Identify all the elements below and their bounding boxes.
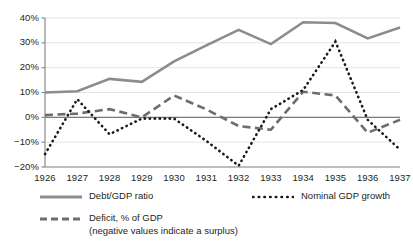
- x-tick-label: 1930: [158, 172, 190, 183]
- x-tick-label: 1928: [94, 172, 126, 183]
- x-tick-label: 1929: [126, 172, 158, 183]
- legend-item-nominal-gdp-growth: Nominal GDP growth: [252, 190, 390, 203]
- x-tick-label: 1931: [190, 172, 222, 183]
- dashed-line-marker: [40, 213, 82, 225]
- legend-label-nominal-gdp-growth: Nominal GDP growth: [301, 190, 390, 203]
- solid-line-marker: [40, 191, 82, 203]
- x-tick-label: 1933: [255, 172, 287, 183]
- y-tick-label: 10%: [20, 86, 39, 97]
- gdp-debt-deficit-chart: −20%−10%0%10%20%30%40% 19261927192819291…: [0, 0, 413, 246]
- x-tick-label: 1926: [29, 172, 61, 183]
- series-line-debt-gdp-ratio: [45, 22, 400, 92]
- legend-deficit-text-block: Deficit, % of GDP (negative values indic…: [89, 212, 238, 237]
- chart-legend: Debt/GDP ratio Nominal GDP growth Defici…: [0, 186, 413, 246]
- dotted-line-marker: [252, 191, 294, 203]
- y-tick-label: 0%: [25, 111, 39, 122]
- x-tick-label: 1932: [223, 172, 255, 183]
- x-tick-label: 1936: [352, 172, 384, 183]
- gridlines: [45, 18, 400, 167]
- legend-item-deficit-pct-gdp: Deficit, % of GDP (negative values indic…: [40, 212, 238, 237]
- legend-sublabel-deficit-note: (negative values indicate a surplus): [89, 225, 238, 238]
- legend-label-deficit-pct-gdp: Deficit, % of GDP: [89, 212, 238, 225]
- x-tick-label: 1927: [61, 172, 93, 183]
- y-tick-label: −20%: [14, 161, 39, 172]
- series-line-nominal-gdp-growth: [45, 42, 400, 166]
- data-series-group: [45, 22, 400, 166]
- y-tick-label: −10%: [14, 136, 39, 147]
- x-tick-label: 1934: [287, 172, 319, 183]
- series-line-deficit-of-gdp: [45, 92, 400, 133]
- legend-item-debt-gdp-ratio: Debt/GDP ratio: [40, 190, 153, 203]
- legend-label-debt-gdp-ratio: Debt/GDP ratio: [89, 190, 153, 203]
- x-tick-label: 1935: [319, 172, 351, 183]
- y-tick-label: 40%: [20, 12, 39, 23]
- y-tick-label: 30%: [20, 36, 39, 47]
- x-tick-label: 1937: [384, 172, 413, 183]
- y-tick-label: 20%: [20, 61, 39, 72]
